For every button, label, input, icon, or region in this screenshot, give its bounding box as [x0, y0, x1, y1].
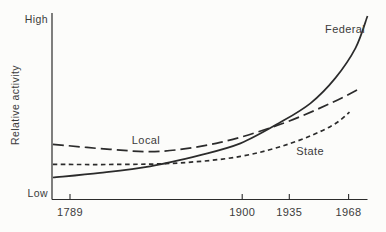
- x-tick-labels: 1789 1900 1935 1968: [57, 206, 362, 218]
- y-axis-title: Relative activity: [9, 65, 21, 145]
- local-line: [53, 88, 361, 152]
- local-label: Local: [132, 134, 160, 146]
- federal-label: Federal: [325, 23, 365, 35]
- y-axis-low-label: Low: [28, 187, 48, 199]
- x-tick-marks: [70, 194, 349, 200]
- x-tick-label-1900: 1900: [229, 206, 255, 218]
- x-tick-label-1935: 1935: [276, 206, 302, 218]
- x-tick-label-1968: 1968: [336, 206, 362, 218]
- government-activity-chart: 1789 1900 1935 1968 Federal Local State …: [0, 0, 386, 232]
- series-labels: Federal Local State: [132, 23, 365, 158]
- axes: [52, 13, 368, 200]
- chart-canvas: 1789 1900 1935 1968 Federal Local State …: [0, 0, 386, 232]
- x-tick-label-1789: 1789: [57, 206, 83, 218]
- y-axis-high-label: High: [25, 13, 48, 25]
- state-label: State: [296, 145, 324, 157]
